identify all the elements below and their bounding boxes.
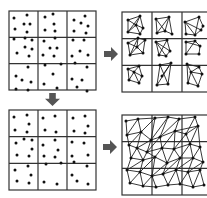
point — [16, 52, 19, 55]
point — [142, 159, 145, 162]
point — [15, 142, 18, 145]
point — [60, 162, 63, 165]
mesh-edge — [126, 119, 138, 121]
point — [127, 42, 130, 45]
point — [27, 89, 30, 92]
point — [13, 116, 16, 119]
point — [56, 183, 59, 186]
mesh-edge — [138, 119, 141, 132]
mesh-edge — [180, 172, 188, 184]
point — [126, 169, 129, 172]
point — [185, 41, 188, 44]
point — [54, 115, 57, 118]
mesh-edge — [157, 84, 168, 85]
point — [142, 52, 145, 55]
mesh-edge — [128, 32, 140, 34]
point — [133, 71, 136, 74]
point — [15, 75, 18, 78]
point — [76, 180, 79, 183]
point — [165, 55, 168, 58]
point — [189, 143, 192, 146]
mesh-edge — [131, 158, 143, 160]
point — [71, 174, 74, 177]
point — [142, 27, 145, 30]
point — [43, 40, 46, 43]
point — [45, 163, 48, 166]
point — [138, 82, 141, 85]
point — [202, 161, 205, 164]
mesh-edge — [130, 183, 143, 186]
point — [161, 75, 164, 78]
point — [169, 50, 172, 53]
mesh-edge — [200, 147, 203, 162]
point — [135, 24, 138, 27]
point — [24, 46, 27, 49]
point — [53, 23, 56, 26]
point — [174, 130, 177, 133]
point — [28, 123, 31, 126]
point — [71, 55, 74, 58]
point — [73, 130, 76, 133]
mesh-edge — [160, 137, 162, 148]
mesh-edge — [131, 148, 137, 158]
mesh-edge — [162, 148, 174, 149]
point — [87, 25, 90, 28]
mesh-edge — [163, 174, 168, 185]
point — [198, 66, 201, 69]
point — [125, 120, 128, 123]
point — [141, 75, 144, 78]
point — [52, 13, 55, 16]
point — [187, 82, 190, 85]
point — [178, 118, 181, 121]
point — [198, 53, 201, 56]
point — [74, 62, 77, 65]
point — [199, 146, 202, 149]
mesh-edge — [143, 186, 156, 187]
point — [155, 186, 158, 189]
mesh-edge — [156, 40, 167, 42]
point — [81, 79, 84, 82]
mesh-edge — [191, 72, 202, 74]
point — [201, 73, 204, 76]
point — [71, 155, 74, 158]
point — [154, 156, 157, 159]
point — [139, 33, 142, 36]
point — [192, 157, 195, 160]
point — [42, 144, 45, 147]
point — [86, 165, 89, 168]
mesh-edge — [193, 185, 204, 187]
mesh-edge — [156, 19, 157, 33]
mesh-edge — [188, 72, 191, 83]
point — [185, 133, 188, 136]
point — [127, 19, 130, 22]
point — [167, 83, 170, 86]
point — [162, 173, 165, 176]
point — [138, 65, 141, 68]
mesh-edge — [176, 170, 180, 184]
mesh-edge — [174, 149, 180, 158]
point — [137, 37, 140, 40]
mesh-edge — [185, 17, 199, 22]
point — [142, 185, 145, 188]
mesh-edge — [156, 185, 168, 187]
point — [155, 41, 158, 44]
point — [31, 48, 34, 51]
point — [42, 117, 45, 120]
mesh-edge — [193, 147, 200, 158]
point — [26, 114, 29, 117]
mesh-edge — [129, 145, 131, 158]
point — [71, 78, 74, 81]
point — [139, 15, 142, 18]
point — [137, 118, 140, 121]
point — [72, 117, 75, 120]
point — [28, 155, 31, 158]
mesh-edge — [130, 172, 140, 183]
arrow-right-top-icon — [104, 47, 118, 61]
mesh-edge — [141, 132, 151, 140]
mesh-edge — [188, 172, 193, 187]
point — [144, 39, 147, 42]
point — [185, 53, 188, 56]
mesh-edge — [190, 144, 193, 158]
panel-top-right-local-meshes — [122, 12, 207, 92]
point — [87, 183, 90, 186]
